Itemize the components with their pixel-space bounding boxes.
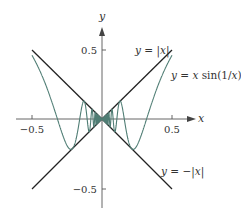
y-axis-label: y (98, 10, 106, 23)
label-abs: y = |x| (134, 44, 169, 58)
y-tick-label-neg: −0.5 (73, 184, 97, 195)
y-axis-arrow-icon (99, 27, 105, 36)
label-negabs: y = −|x| (160, 165, 204, 179)
abs-line-left (32, 50, 102, 119)
negabs-line-right (102, 119, 172, 189)
axes: −0.5 0.5 0.5 −0.5 x y (16, 10, 205, 208)
label-xsin: y = x sin(1/x) (170, 69, 241, 81)
chart: −0.5 0.5 0.5 −0.5 x y y = |x| y = x sin(… (0, 0, 241, 218)
x-tick-label-neg: −0.5 (20, 124, 44, 135)
x-axis-label: x (198, 112, 205, 125)
y-tick-label-pos: 0.5 (81, 45, 97, 56)
x-axis-arrow-icon (187, 116, 196, 122)
abs-line-right (102, 50, 172, 119)
x-tick-label-pos: 0.5 (164, 124, 180, 135)
